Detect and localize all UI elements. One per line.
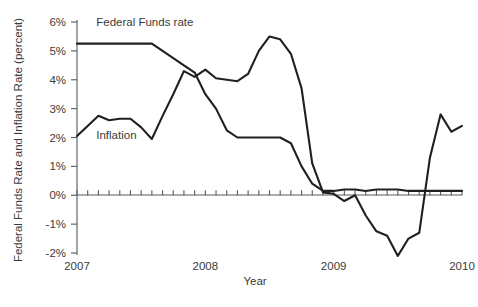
y-tick-label: -2% xyxy=(46,247,66,259)
y-tick-label: 6% xyxy=(49,16,66,28)
y-tick-label: 3% xyxy=(49,103,66,115)
x-axis-title: Year xyxy=(243,275,266,287)
y-axis-tick-labels: 6%5%4%3%2%1%0%-1%-2% xyxy=(46,16,66,259)
y-tick-label: -1% xyxy=(46,218,66,230)
chart-plot-area: 6%5%4%3%2%1%0%-1%-2% 2007200820092010 Fe… xyxy=(0,0,478,307)
y-axis-title: Federal Funds Rate and Inflation Rate (p… xyxy=(12,18,24,262)
y-tick-label: 1% xyxy=(49,160,66,172)
y-tick-label: 4% xyxy=(49,74,66,86)
y-tick-label: 2% xyxy=(49,132,66,144)
annotation-federal-funds-rate: Federal Funds rate xyxy=(96,16,193,28)
y-tick-label: 5% xyxy=(49,45,66,57)
chart-figure: 6%5%4%3%2%1%0%-1%-2% 2007200820092010 Fe… xyxy=(0,0,478,307)
x-tick-label: 2009 xyxy=(321,260,347,272)
y-tick-label: 0% xyxy=(49,189,66,201)
x-tick-label: 2008 xyxy=(193,260,219,272)
x-tick-label: 2010 xyxy=(449,260,475,272)
x-tick-label: 2007 xyxy=(64,260,90,272)
annotation-inflation: Inflation xyxy=(96,129,136,141)
